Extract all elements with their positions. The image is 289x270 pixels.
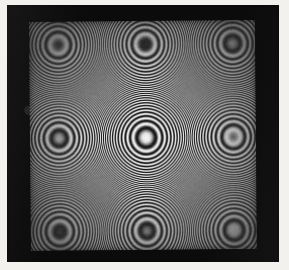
figure-root [0, 0, 289, 270]
newtons-rings-pattern [29, 20, 257, 251]
interferogram-field [29, 20, 257, 251]
